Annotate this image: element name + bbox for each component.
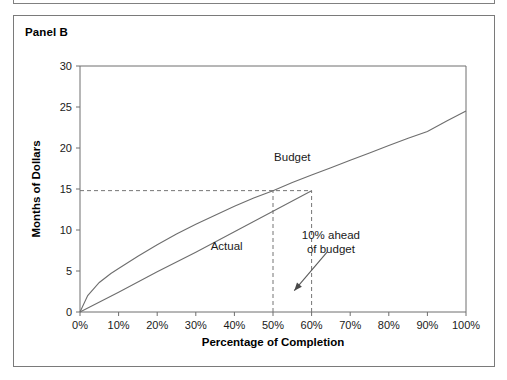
previous-panel-bottom-edge	[13, 0, 495, 4]
panel-b-container: Panel B	[13, 15, 495, 367]
panel-title: Panel B	[25, 26, 68, 38]
